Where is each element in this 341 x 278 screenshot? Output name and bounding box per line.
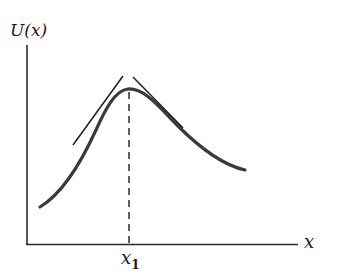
- x1-label-base: x: [121, 247, 131, 268]
- y-axis-label: U(x): [10, 22, 47, 39]
- tangent-right: [133, 77, 183, 128]
- x1-label: x1: [121, 249, 140, 271]
- x1-label-subscript: 1: [131, 258, 139, 272]
- tangent-left: [73, 76, 123, 145]
- potential-curve: [40, 89, 245, 207]
- x-axis-label: x: [304, 233, 314, 251]
- diagram-canvas: [0, 0, 341, 278]
